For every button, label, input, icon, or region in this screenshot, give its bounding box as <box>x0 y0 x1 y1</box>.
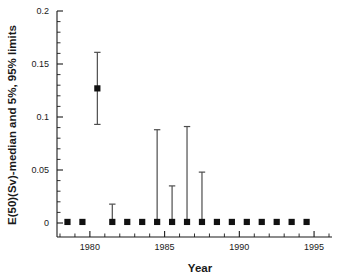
y-tick-label: 0.15 <box>31 59 49 69</box>
data-point <box>109 204 115 225</box>
data-point <box>124 219 130 225</box>
axes: 00.050.10.150.21980198519901995 <box>31 6 332 252</box>
data-point <box>94 52 100 124</box>
data-point <box>229 219 235 225</box>
data-point <box>169 186 175 225</box>
data-point <box>214 219 220 225</box>
median-marker <box>94 85 100 91</box>
data-point <box>303 219 309 225</box>
data-point <box>289 219 295 225</box>
median-marker <box>214 219 220 225</box>
median-marker <box>289 219 295 225</box>
median-marker <box>274 219 280 225</box>
y-tick-label: 0.2 <box>36 6 49 16</box>
data-point <box>199 172 205 225</box>
x-tick-label: 1995 <box>304 242 324 252</box>
data-series <box>64 52 309 225</box>
x-tick-label: 1990 <box>229 242 249 252</box>
y-tick-label: 0 <box>44 218 49 228</box>
data-point <box>244 219 250 225</box>
median-marker <box>229 219 235 225</box>
median-marker <box>109 219 115 225</box>
y-tick-label: 0.1 <box>36 112 49 122</box>
x-axis-title: Year <box>188 262 213 274</box>
y-axis-title: E(50)(Sv)-median and 5%, 95% limits <box>6 25 18 225</box>
median-marker <box>64 219 70 225</box>
median-marker <box>139 219 145 225</box>
median-marker <box>303 219 309 225</box>
median-marker <box>169 219 175 225</box>
median-marker <box>79 219 85 225</box>
data-point <box>79 219 85 225</box>
data-point <box>184 127 190 225</box>
data-point <box>259 219 265 225</box>
x-tick-label: 1985 <box>155 242 175 252</box>
scatter-plot: 00.050.10.150.21980198519901995 E(50)(Sv… <box>0 0 342 277</box>
median-marker <box>184 219 190 225</box>
median-marker <box>124 219 130 225</box>
y-tick-label: 0.05 <box>31 165 49 175</box>
data-point <box>64 219 70 225</box>
median-marker <box>244 219 250 225</box>
data-point <box>154 130 160 225</box>
median-marker <box>199 219 205 225</box>
median-marker <box>154 219 160 225</box>
chart-container: 00.050.10.150.21980198519901995 E(50)(Sv… <box>0 0 342 277</box>
median-marker <box>259 219 265 225</box>
data-point <box>139 219 145 225</box>
data-point <box>274 219 280 225</box>
x-tick-label: 1980 <box>80 242 100 252</box>
